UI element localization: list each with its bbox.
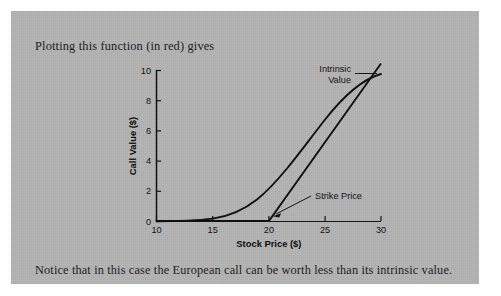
x-tick-label: 10 <box>151 225 161 235</box>
chart-svg: 0 2 4 6 8 10 10 15 20 25 <box>11 51 479 256</box>
x-tick-label: 30 <box>376 225 386 235</box>
x-axis-title: Stock Price ($) <box>236 238 301 249</box>
x-tick-label: 25 <box>320 225 330 235</box>
y-tick-label: 2 <box>146 186 151 196</box>
y-tick-label: 4 <box>146 156 151 166</box>
page-root: Plotting this function (in red) gives 0 <box>0 0 501 296</box>
y-tick-label: 8 <box>146 96 151 106</box>
intrinsic-value-label-line1: Intrinsic <box>319 64 351 74</box>
annotation-strike-price: Strike Price <box>273 191 362 218</box>
y-axis-ticks: 0 2 4 6 8 10 <box>141 66 161 227</box>
y-tick-label: 10 <box>141 66 151 76</box>
x-tick-label: 20 <box>264 225 274 235</box>
intrinsic-value-label-line2: Value <box>328 75 351 85</box>
caption-paragraph: Notice that in this case the European ca… <box>35 263 452 278</box>
y-tick-label: 0 <box>146 217 151 227</box>
y-tick-label: 6 <box>146 126 151 136</box>
strike-price-label: Strike Price <box>315 191 362 201</box>
chart-figure: 0 2 4 6 8 10 10 15 20 25 <box>11 51 479 256</box>
figure-panel: Plotting this function (in red) gives 0 <box>11 11 479 284</box>
y-axis-title: Call Value ($) <box>127 117 138 175</box>
x-tick-label: 15 <box>208 225 218 235</box>
x-axis-ticks: 10 15 20 25 30 <box>151 216 386 235</box>
